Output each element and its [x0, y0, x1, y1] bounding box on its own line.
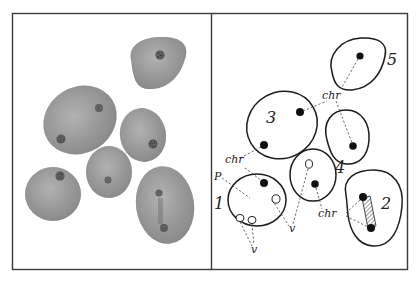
diagram-cell-1: 1	[214, 174, 286, 226]
cell-number-1: 1	[214, 194, 224, 213]
cell-number-3: 3	[266, 108, 276, 127]
diagram-cell-3: 3	[234, 78, 329, 171]
micro-cell-center	[86, 146, 132, 198]
chromocenter-dot	[57, 135, 66, 144]
micro-cell-bottom-left	[25, 167, 81, 221]
chromocenter-dot	[156, 190, 163, 197]
label-v-bottom: v	[251, 243, 258, 256]
chromocenter-dot	[160, 224, 168, 232]
cell-number-5: 5	[387, 50, 397, 69]
right-panel-diagram: 5 3 4 1	[213, 38, 402, 256]
cell-number-4: 4	[334, 158, 345, 177]
chromocenter-dot	[260, 141, 268, 149]
label-chr-bottom: chr	[318, 207, 337, 220]
chromocenter-dot	[260, 179, 268, 187]
chromocenter-dot	[359, 193, 367, 201]
chromocenter-dot	[95, 104, 103, 112]
vacuole	[306, 160, 313, 168]
chromocenter-dot	[349, 142, 357, 150]
vacuole	[248, 216, 256, 223]
cell-number-2: 2	[380, 194, 391, 213]
label-chr-left: chr	[225, 153, 244, 166]
micro-cell-top	[131, 37, 187, 89]
vacuole	[272, 195, 280, 203]
diagram-cell-4-upper	[326, 110, 369, 164]
diagram-cell-5: 5	[331, 38, 397, 90]
chromocenter-dot	[311, 180, 319, 188]
label-v-center: v	[289, 222, 296, 235]
chromocenter-dot	[296, 108, 304, 116]
chromocenter-dot	[56, 172, 65, 181]
vacuole	[236, 214, 244, 221]
micro-cell-bottom-right	[131, 162, 199, 247]
left-panel-micrograph	[25, 37, 199, 248]
chromocenter-dot	[149, 140, 158, 149]
chromocenter-dot	[356, 52, 363, 59]
chromocenter-dot	[156, 51, 165, 60]
label-p: P	[213, 170, 222, 183]
diagram-cell-2: 2	[345, 170, 402, 246]
chromocenter-dot	[105, 177, 112, 184]
chromocenter-dot	[367, 224, 375, 232]
figure-plate: 5 3 4 1	[0, 0, 420, 282]
label-chr-top: chr	[322, 89, 341, 102]
